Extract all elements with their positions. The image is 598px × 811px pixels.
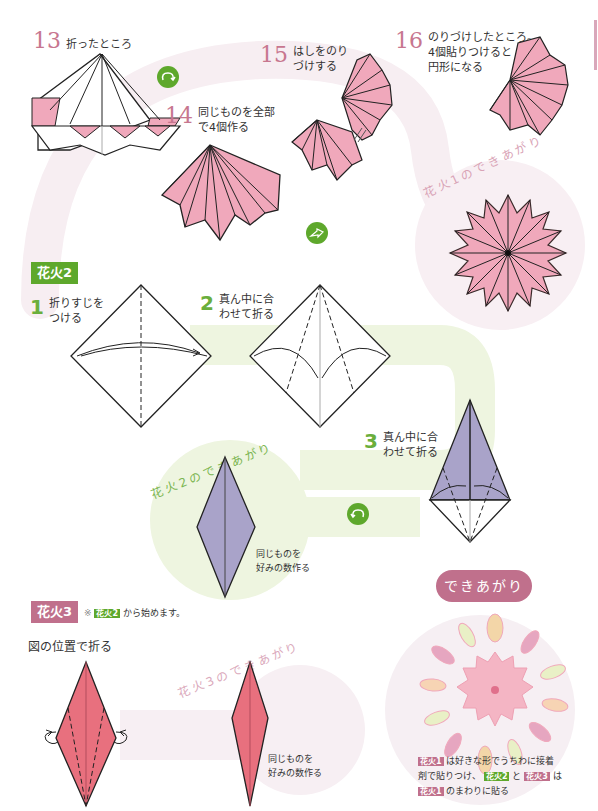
step-number: 15	[260, 42, 288, 67]
hanabi2-note: 同じものを 好みの数作る	[256, 547, 310, 575]
hanabi2-step-3: 3 真ん中に合 わせて折る	[364, 430, 438, 460]
hanabi3-fold-diagram	[40, 660, 150, 810]
hanabi3-instruction: 図の位置で折る	[28, 640, 112, 655]
hanabi2-step1-diagram	[69, 283, 219, 433]
step-number: 1	[30, 295, 44, 319]
hanabi2-tag: 花火2	[94, 609, 120, 618]
step-number: 2	[200, 291, 214, 315]
hanabi3-finished-diagram	[228, 660, 288, 810]
step15-diagram	[292, 50, 412, 190]
hanabi3-note-bottom: 同じものを 好みの数作る	[268, 752, 322, 780]
hanabi3-title: 花火3	[31, 601, 78, 623]
hanabi2-finished-diagram	[195, 455, 265, 605]
hanabi1-tag: 花火1	[418, 787, 444, 796]
step-13: 13 折ったところ	[33, 30, 132, 52]
step-number: 14	[165, 103, 193, 128]
turn-over-icon	[347, 503, 369, 525]
step14-fan-diagram	[160, 145, 290, 255]
step-number: 16	[395, 28, 423, 53]
step-number: 3	[364, 429, 378, 453]
page-edge-tab	[594, 20, 597, 70]
step-text: 同じものを全部	[198, 105, 275, 120]
step16-diagram	[490, 35, 590, 145]
hanabi2-tag: 花火2	[484, 772, 510, 781]
hanabi1-finished-flower	[448, 193, 568, 313]
next-arrow-icon	[306, 222, 328, 244]
step-14: 14 同じものを全部 で4個作る	[165, 105, 275, 135]
hanabi3-tag: 花火3	[524, 772, 550, 781]
turn-over-icon	[157, 66, 179, 88]
step-text: で4個作る	[198, 120, 275, 135]
hanabi2-step2-diagram	[248, 283, 398, 433]
final-description: 花火1 は好きな形でうちわに接着 剤で貼りつけ、 花火2 と 花火3 は 花火1…	[418, 754, 578, 799]
hanabi1-tag: 花火1	[418, 757, 444, 766]
final-title-badge: できあがり	[436, 570, 532, 602]
hanabi2-step3-diagram	[428, 398, 518, 548]
hanabi3-note: ※ 花火2 から始めます。	[84, 606, 185, 621]
hanabi2-title: 花火2	[31, 262, 78, 284]
